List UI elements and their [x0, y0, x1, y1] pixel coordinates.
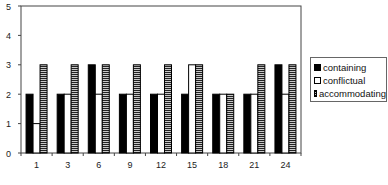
bar-containing-15	[182, 94, 189, 153]
y-tick-label: 0	[6, 149, 11, 159]
x-tick-label: 3	[65, 160, 70, 170]
bar-containing-6	[88, 65, 95, 153]
bar-conflictual-3	[64, 94, 71, 153]
legend-item-conflictual: conflictual	[314, 74, 386, 87]
bar-conflictual-1	[33, 124, 40, 153]
bar-conflictual-18	[220, 94, 227, 153]
bar-accommodating-12	[165, 65, 172, 153]
y-tick-label: 4	[6, 31, 11, 41]
legend-label: conflictual	[323, 75, 365, 86]
bar-accommodating-21	[258, 65, 265, 153]
x-tick-label: 1	[34, 160, 39, 170]
x-tick-label: 15	[187, 160, 197, 170]
legend: containing conflictual accommodating	[310, 57, 387, 102]
legend-swatch-solid	[314, 64, 321, 71]
x-tick-label: 18	[218, 160, 228, 170]
x-tick-label: 24	[280, 160, 290, 170]
y-tick-label: 1	[6, 119, 11, 129]
legend-item-accommodating: accommodating	[314, 87, 386, 100]
bar-accommodating-18	[227, 94, 234, 153]
bar-accommodating-15	[196, 65, 203, 153]
bar-conflictual-6	[95, 94, 102, 153]
y-axis: 012345	[6, 2, 21, 159]
bar-conflictual-21	[251, 94, 258, 153]
legend-swatch-empty	[314, 77, 321, 84]
bar-conflictual-9	[126, 94, 133, 153]
x-tick-label: 21	[249, 160, 259, 170]
bar-accommodating-9	[133, 65, 140, 153]
y-tick-label: 3	[6, 60, 11, 70]
y-tick-label: 2	[6, 90, 11, 100]
bar-accommodating-3	[71, 65, 78, 153]
bars	[26, 65, 296, 153]
legend-label: containing	[323, 62, 366, 73]
x-axis: 13691215182124	[21, 153, 301, 170]
bar-containing-1	[26, 94, 33, 153]
x-tick-label: 12	[156, 160, 166, 170]
bar-accommodating-1	[40, 65, 47, 153]
bar-accommodating-6	[102, 65, 109, 153]
bar-containing-3	[57, 94, 64, 153]
bar-containing-21	[244, 94, 251, 153]
y-tick-label: 5	[6, 2, 11, 12]
bar-conflictual-12	[158, 94, 165, 153]
x-tick-label: 9	[127, 160, 132, 170]
legend-item-containing: containing	[314, 61, 386, 74]
legend-label: accommodating	[319, 88, 386, 99]
bar-containing-24	[275, 65, 282, 153]
x-tick-label: 6	[96, 160, 101, 170]
bar-containing-12	[151, 94, 158, 153]
bar-containing-9	[119, 94, 126, 153]
bar-containing-18	[213, 94, 220, 153]
bar-accommodating-24	[289, 65, 296, 153]
bar-conflictual-24	[282, 94, 289, 153]
legend-swatch-striped	[314, 90, 317, 97]
bar-conflictual-15	[189, 65, 196, 153]
